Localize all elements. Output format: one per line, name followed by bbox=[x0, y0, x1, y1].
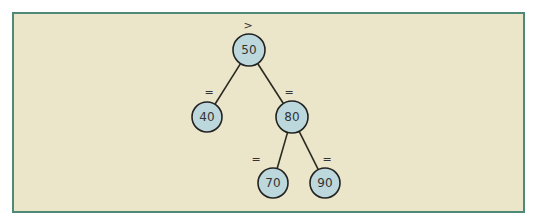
node-value: 50 bbox=[241, 43, 256, 57]
node-balance-mark: = bbox=[284, 86, 293, 99]
node-balance-mark: = bbox=[251, 153, 260, 166]
node-value: 90 bbox=[317, 176, 332, 190]
tree-edge-50-80 bbox=[258, 63, 284, 103]
tree-edge-50-40 bbox=[215, 64, 241, 105]
tree-edge-80-90 bbox=[299, 131, 318, 169]
node-value: 80 bbox=[284, 110, 299, 124]
binary-tree-diagram: 50>40=80=70=90= bbox=[0, 0, 534, 223]
node-balance-mark: = bbox=[204, 86, 213, 99]
node-value: 70 bbox=[265, 176, 280, 190]
node-balance-mark: > bbox=[243, 19, 252, 32]
tree-nodes: 50>40=80=70=90= bbox=[192, 19, 340, 198]
tree-node-40: 40= bbox=[192, 86, 222, 132]
tree-node-70: 70= bbox=[251, 153, 288, 198]
node-balance-mark: = bbox=[322, 153, 331, 166]
tree-node-80: 80= bbox=[276, 86, 308, 133]
tree-node-50: 50> bbox=[233, 19, 265, 66]
tree-edge-80-70 bbox=[277, 132, 287, 168]
tree-node-90: 90= bbox=[310, 153, 340, 198]
node-value: 40 bbox=[199, 110, 214, 124]
